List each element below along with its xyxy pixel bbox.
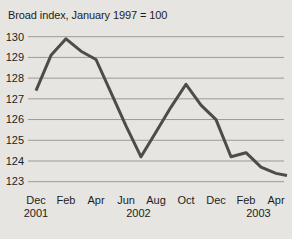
year-label: 2002 bbox=[126, 207, 150, 219]
year-label: 2003 bbox=[246, 207, 270, 219]
line-chart: 130129128127126125124123DecFebAprJunAugO… bbox=[0, 0, 292, 239]
data-line bbox=[36, 39, 287, 176]
y-tick-label: 124 bbox=[6, 155, 24, 167]
y-tick-label: 123 bbox=[6, 175, 24, 187]
y-tick-label: 130 bbox=[6, 31, 24, 43]
x-tick-label: Apr bbox=[87, 194, 104, 206]
year-label: 2001 bbox=[24, 207, 48, 219]
y-tick-label: 125 bbox=[6, 134, 24, 146]
x-tick-label: Aug bbox=[146, 194, 166, 206]
x-tick-label: Jun bbox=[117, 194, 135, 206]
y-tick-label: 126 bbox=[6, 113, 24, 125]
y-tick-label: 128 bbox=[6, 72, 24, 84]
x-tick-label: Dec bbox=[26, 194, 46, 206]
x-tick-label: Feb bbox=[57, 194, 76, 206]
x-tick-label: Apr bbox=[267, 194, 284, 206]
x-tick-label: Oct bbox=[177, 194, 194, 206]
x-tick-label: Feb bbox=[237, 194, 256, 206]
y-tick-label: 129 bbox=[6, 51, 24, 63]
y-tick-label: 127 bbox=[6, 93, 24, 105]
chart-panel: Broad index, January 1997 = 100 13012912… bbox=[0, 0, 292, 239]
x-tick-label: Dec bbox=[206, 194, 226, 206]
